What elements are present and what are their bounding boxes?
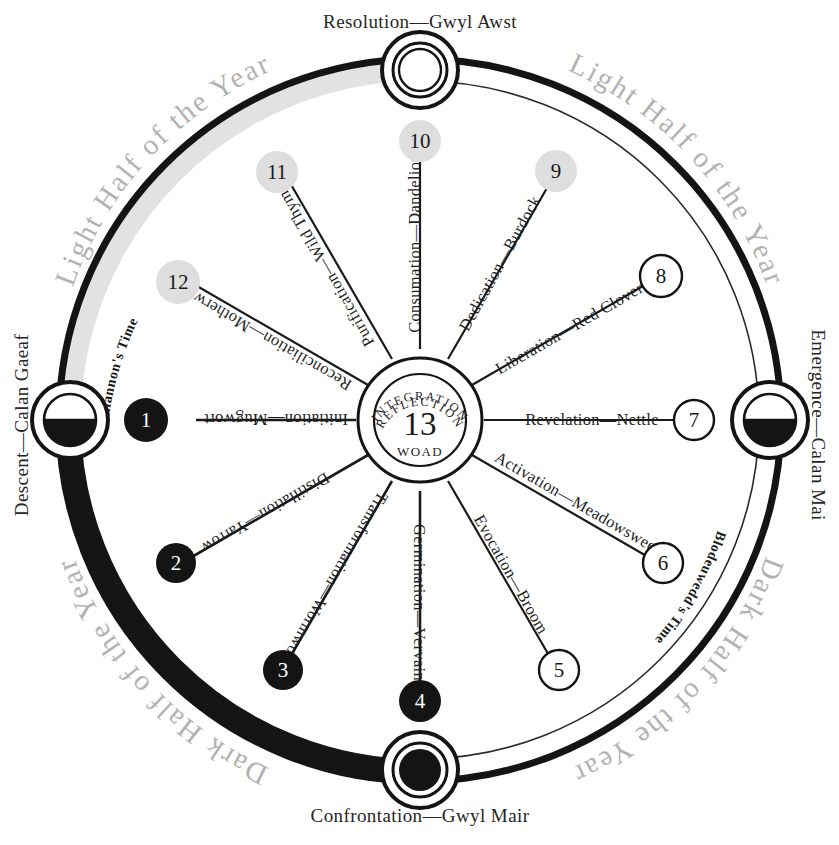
node-5[interactable]: 5 <box>539 650 579 690</box>
spoke-label-9: Dedication—Burdock <box>455 192 545 334</box>
half-moon-icon-right <box>732 382 808 458</box>
hub-number: 13 <box>404 406 437 442</box>
spoke-label-4: Germination—Vervain <box>410 524 429 681</box>
node-3-number: 3 <box>278 658 289 682</box>
node-12-number: 12 <box>168 270 189 294</box>
spoke-label-5: Evocation—Broom <box>470 511 552 637</box>
spoke-label-8: Liberation—Red Clover <box>492 278 647 378</box>
node-9-number: 9 <box>551 159 562 183</box>
spoke-label-12: Reconciliation—Motherwort <box>173 279 355 395</box>
node-7-number: 7 <box>689 408 700 432</box>
spoke-label-10: Consumation—Dandelion <box>405 153 424 333</box>
node-4-number: 4 <box>415 689 426 713</box>
node-9[interactable]: 9 <box>535 150 577 192</box>
spoke-label-11: Purification—Wild Thyme <box>270 181 378 350</box>
node-1-number: 1 <box>141 408 152 432</box>
center-hub[interactable]: INTEGRATION REFLECTION 13 WOAD <box>358 358 482 482</box>
wheel-diagram: Light Half of the Year Light Half of the… <box>0 0 839 845</box>
node-11-number: 11 <box>267 160 287 184</box>
node-8[interactable]: 8 <box>640 255 682 297</box>
page-title-left: Descent—Calan Gaeaf <box>11 334 32 517</box>
spoke-label-1: Initiation—Mugwort <box>204 410 348 429</box>
dark-moon-icon <box>382 732 458 808</box>
spoke-line-11 <box>282 169 392 359</box>
node-11[interactable]: 11 <box>256 151 298 193</box>
spoke-label-7: Revelation—Nettle <box>525 410 659 429</box>
dark-half-band-left <box>70 420 420 770</box>
node-4[interactable]: 4 <box>399 680 441 722</box>
node-2[interactable]: 2 <box>156 543 196 583</box>
spoke-label-6: Activation—Meadowsweet <box>491 447 664 558</box>
node-1[interactable]: 1 <box>124 398 168 442</box>
page-title-bottom: Confrontation—Gwyl Mair <box>311 805 530 826</box>
spoke-label-2: Distillation—Yarrow <box>198 469 333 558</box>
hub-plant-label: WOAD <box>397 444 443 459</box>
dark-half-band-right <box>420 420 770 770</box>
node-8-number: 8 <box>656 264 667 288</box>
node-10[interactable]: 10 <box>399 120 441 162</box>
node-12[interactable]: 12 <box>156 260 200 304</box>
node-6-number: 6 <box>658 551 669 575</box>
spoke-label-3: Transformation—Wormwood <box>273 489 391 675</box>
node-6[interactable]: 6 <box>643 543 683 583</box>
half-moon-icon-left <box>32 382 108 458</box>
node-10-number: 10 <box>410 129 431 153</box>
node-5-number: 5 <box>554 658 565 682</box>
node-7[interactable]: 7 <box>674 400 714 440</box>
light-half-band-right <box>420 70 770 420</box>
node-2-number: 2 <box>171 551 182 575</box>
page-title-top: Resolution—Gwyl Awst <box>323 11 517 32</box>
full-ring-moon-icon <box>382 32 458 108</box>
page-title-right: Emergence—Calan Mai <box>808 329 829 521</box>
node-3[interactable]: 3 <box>263 650 303 690</box>
